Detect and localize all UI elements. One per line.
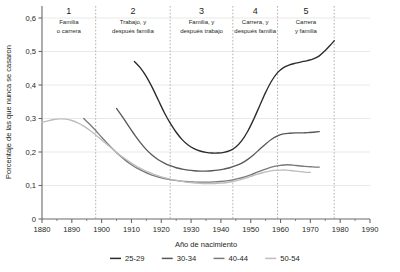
phase-desc-line1-2: Trabajo, y (120, 19, 146, 25)
series-line-30-34 (117, 108, 320, 171)
series-line-40-44 (84, 119, 320, 183)
x-tick-label: 1960 (272, 225, 289, 234)
x-axis-label: Año de nacimiento (175, 240, 237, 249)
phase-desc-line2-5: y familia (295, 28, 318, 34)
phase-number-4: 4 (253, 6, 258, 16)
legend-label-50-54: 50-54 (280, 254, 299, 263)
y-tick-label: 0,4 (25, 81, 36, 90)
axes (42, 6, 370, 219)
x-tick-label: 1900 (93, 225, 110, 234)
x-tick-label: 1890 (63, 225, 80, 234)
y-tick-label: 0,3 (25, 114, 36, 123)
x-tick-label: 1950 (242, 225, 259, 234)
y-tick-label: 0,5 (25, 47, 36, 56)
legend: 25-2930-3440-4450-54 (110, 254, 300, 263)
x-tick-label: 1910 (123, 225, 140, 234)
x-tick-label: 1880 (34, 225, 51, 234)
phase-desc-line2-2: después familia (112, 28, 154, 34)
y-axis-ticks: 00,10,20,30,40,50,6 (25, 14, 42, 224)
phase-number-1: 1 (66, 6, 71, 16)
phase-number-2: 2 (130, 6, 135, 16)
legend-label-40-44: 40-44 (229, 254, 248, 263)
phase-desc-line1-4: Carrera, y (242, 19, 269, 25)
x-tick-label: 1930 (183, 225, 200, 234)
phase-desc-line2-1: o carrera (57, 28, 82, 34)
y-tick-label: 0,6 (25, 14, 36, 23)
phase-desc-line1-3: Familia, y (189, 19, 215, 25)
x-tick-label: 1990 (362, 225, 379, 234)
phase-dividers (96, 6, 335, 219)
chart-container: 1880189019001910192019301940195019601970… (0, 0, 400, 272)
line-chart-figure: 1880189019001910192019301940195019601970… (0, 0, 400, 272)
phase-desc-line1-5: Carrera (296, 19, 317, 25)
series-line-50-54 (42, 119, 310, 184)
y-tick-label: 0 (32, 215, 36, 224)
series-line-25-29 (134, 41, 334, 153)
grid-lines (42, 18, 370, 186)
legend-label-30-34: 30-34 (177, 254, 196, 263)
x-tick-label: 1980 (332, 225, 349, 234)
phase-number-3: 3 (199, 6, 204, 16)
data-series (42, 41, 334, 184)
phase-desc-line1-1: Familia (59, 19, 79, 25)
phase-number-5: 5 (303, 6, 308, 16)
legend-label-25-29: 25-29 (125, 254, 144, 263)
y-tick-label: 0,1 (25, 181, 36, 190)
phase-desc-line2-3: después trabajo (180, 28, 223, 34)
x-tick-label: 1920 (153, 225, 170, 234)
x-tick-label: 1970 (302, 225, 319, 234)
y-tick-label: 0,2 (25, 148, 36, 157)
y-axis-label: Porcentaje de las que nunca se casaron (4, 45, 13, 179)
phase-desc-line2-4: después familia (234, 28, 276, 34)
x-axis-ticks: 1880189019001910192019301940195019601970… (34, 219, 379, 234)
x-tick-label: 1940 (212, 225, 229, 234)
